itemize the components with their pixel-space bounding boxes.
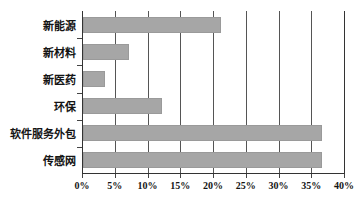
x-tick-label-15%: 15%	[170, 180, 190, 191]
x-tick-30%	[279, 174, 280, 178]
x-tick-label-25%: 25%	[236, 180, 256, 191]
y-tick-2	[77, 65, 82, 66]
x-tick-35%	[311, 174, 312, 178]
category-label-0: 新能源	[0, 17, 76, 33]
gridline-0%	[82, 11, 83, 174]
x-tick-label-30%: 30%	[269, 180, 289, 191]
gridline-20%	[213, 11, 214, 174]
gridline-10%	[148, 11, 149, 174]
x-tick-label-5%: 5%	[107, 180, 122, 191]
gridline-40%	[344, 11, 345, 174]
gridline-25%	[246, 11, 247, 174]
x-tick-25%	[246, 174, 247, 178]
gridline-15%	[180, 11, 181, 174]
gridline-5%	[115, 11, 116, 174]
category-label-1: 新材料	[0, 44, 76, 60]
gridline-30%	[279, 11, 280, 174]
x-tick-5%	[115, 174, 116, 178]
x-tick-10%	[148, 174, 149, 178]
category-label-2: 新医药	[0, 71, 76, 87]
bar-0	[83, 17, 221, 33]
y-tick-1	[77, 38, 82, 39]
bar-5	[83, 152, 322, 168]
y-tick-3	[77, 93, 82, 94]
x-tick-label-0%: 0%	[75, 180, 90, 191]
bar-2	[83, 71, 105, 87]
bar-1	[83, 44, 129, 60]
y-tick-4	[77, 120, 82, 121]
x-tick-0%	[82, 174, 83, 178]
chart-title-clipped	[0, 0, 362, 7]
plot-area	[82, 11, 344, 174]
x-tick-label-10%: 10%	[138, 180, 158, 191]
x-tick-40%	[344, 174, 345, 178]
bar-chart: 新能源新材料新医药环保软件服务外包传感网 0%5%10%15%20%25%30%…	[0, 0, 362, 202]
x-tick-label-35%: 35%	[301, 180, 321, 191]
x-tick-20%	[213, 174, 214, 178]
gridline-35%	[311, 11, 312, 174]
category-label-3: 环保	[0, 98, 76, 114]
category-label-4: 软件服务外包	[0, 125, 76, 141]
bar-4	[83, 125, 322, 141]
x-tick-label-20%: 20%	[203, 180, 223, 191]
x-tick-label-40%: 40%	[334, 180, 354, 191]
category-label-5: 传感网	[0, 152, 76, 168]
y-tick-5	[77, 147, 82, 148]
x-tick-15%	[180, 174, 181, 178]
bar-3	[83, 98, 162, 114]
